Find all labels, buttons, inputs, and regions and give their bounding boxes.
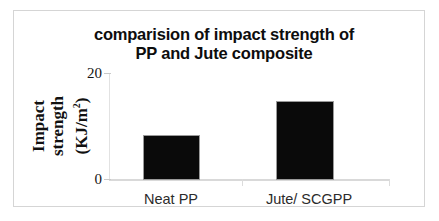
category-label-neat-pp: Neat PP [116, 191, 226, 207]
y-axis-label: Impact strength (KJ/m2) [32, 66, 88, 186]
y-tick-label-20: 20 [87, 66, 102, 81]
y-axis-unit-prefix: (KJ/m [72, 108, 91, 154]
y-axis-label-text: Impact strength (KJ/m2) [29, 96, 91, 156]
chart-title-line-1: comparision of impact strength of [54, 25, 394, 44]
chart-title-line-2: PP and Jute composite [54, 44, 394, 63]
x-axis-tick-middle [242, 179, 243, 186]
y-axis-label-line-1: Impact [29, 96, 48, 156]
plot-area: 20 0 [109, 66, 390, 181]
chart-plot-frame: comparision of impact strength of PP and… [13, 10, 425, 207]
y-tick-label-0: 0 [95, 172, 103, 187]
y-axis-label-line-3: (KJ/m2) [67, 96, 91, 156]
x-axis-category-labels: Neat PP Jute/ SCGPP [109, 191, 390, 213]
bar-jute-scgpp [276, 101, 334, 181]
x-axis-tick-right [389, 179, 390, 186]
category-label-jute-scgpp: Jute/ SCGPP [249, 191, 369, 207]
y-axis-tick-bottom [104, 179, 111, 180]
chart-figure: comparision of impact strength of PP and… [0, 0, 439, 221]
y-axis-unit-superscript: 2 [71, 103, 82, 108]
bar-neat-pp [143, 135, 200, 180]
y-axis-tick-top [104, 73, 111, 74]
y-axis-line [109, 73, 110, 180]
y-axis-label-line-2: strength [48, 96, 67, 156]
chart-title: comparision of impact strength of PP and… [54, 25, 394, 63]
y-axis-unit-suffix: ) [72, 98, 91, 104]
